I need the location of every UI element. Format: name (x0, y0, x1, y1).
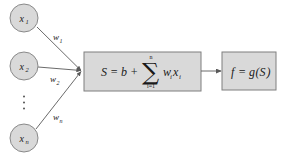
weight-label-w1-subscript: 1 (60, 38, 63, 44)
activation-formula-arg: S (260, 65, 266, 79)
summation-lower-limit: i=1 (147, 83, 155, 89)
ellipsis-dot-2 (23, 102, 25, 104)
weight-label-w1: w 1 (53, 32, 63, 44)
input-node-xn-circle (10, 124, 38, 152)
summation-formula-lhs: S = b + (101, 65, 138, 79)
input-node-x1: x 1 (10, 4, 38, 32)
vertical-ellipsis-icon (23, 96, 25, 110)
ellipsis-dot-3 (23, 108, 25, 110)
weight-label-wn-subscript: n (60, 118, 63, 124)
input-node-x2-label: x (19, 61, 25, 72)
summation-box: S = b + ∑ n i=1 w i x i (84, 52, 201, 91)
input-node-x2: x 2 (10, 52, 38, 80)
activation-formula-close-paren: ) (266, 65, 271, 79)
input-node-x2-circle (10, 52, 38, 80)
input-node-x1-label: x (19, 13, 25, 24)
activation-formula-g: g (249, 65, 255, 79)
weight-label-w2-base: w (50, 74, 56, 84)
summation-term-x: x (172, 65, 179, 79)
diagram-svg: x 1 x 2 x n w 1 w 2 w (0, 0, 285, 157)
weight-label-w2: w 2 (50, 74, 60, 86)
input-node-x1-circle (10, 4, 38, 32)
summation-upper-limit: n (150, 54, 153, 60)
neuron-diagram-canvas: x 1 x 2 x n w 1 w 2 w (0, 0, 285, 157)
weight-label-wn-base: w (53, 112, 59, 122)
summation-sigma-symbol: ∑ (142, 58, 159, 86)
edge-x2-to-sum (38, 67, 81, 71)
input-node-xn-label: x (19, 133, 25, 144)
weight-label-w1-base: w (53, 32, 59, 42)
input-node-xn-subscript: n (26, 138, 29, 145)
summation-term-x-subscript: i (179, 73, 181, 81)
activation-formula-equals: = (238, 65, 246, 79)
ellipsis-dot-1 (23, 96, 25, 98)
activation-box: f = g ( S ) (222, 52, 276, 90)
weight-label-w2-subscript: 2 (57, 80, 60, 86)
weight-label-wn: w n (53, 112, 63, 124)
input-node-x1-subscript: 1 (26, 18, 29, 25)
input-node-xn: x n (10, 124, 38, 152)
summation-term-w-subscript: i (170, 73, 172, 81)
